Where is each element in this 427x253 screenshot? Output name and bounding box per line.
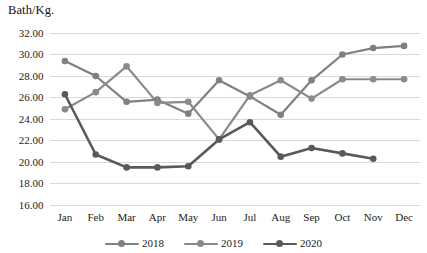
data-point-2020 — [339, 150, 346, 157]
x-axis-tick-label: Aug — [271, 211, 290, 223]
series-line-2020 — [65, 94, 373, 167]
data-point-2019 — [308, 95, 315, 102]
line-chart-svg: 16.0018.0020.0022.0024.0026.0028.0030.00… — [0, 0, 427, 253]
data-point-2019 — [92, 89, 99, 96]
x-axis-tick-label: Jan — [58, 211, 73, 223]
y-axis-tick-label: 30.00 — [19, 48, 44, 60]
legend-swatch-2020 — [263, 239, 297, 249]
data-point-2018 — [277, 111, 284, 118]
y-axis-tick-label: 24.00 — [19, 113, 44, 125]
data-point-2018 — [185, 110, 192, 117]
data-point-2018 — [308, 77, 315, 84]
data-point-2019 — [123, 63, 130, 70]
data-point-2020 — [92, 151, 99, 158]
plot-area: 16.0018.0020.0022.0024.0026.0028.0030.00… — [0, 0, 427, 253]
x-axis-tick-label: Oct — [334, 211, 350, 223]
data-point-2020 — [62, 91, 69, 98]
legend-label-2018: 2018 — [142, 238, 164, 249]
data-point-2019 — [370, 76, 377, 83]
y-axis-tick-label: 28.00 — [19, 70, 44, 82]
data-point-2018 — [216, 77, 223, 84]
x-axis-tick-label: Feb — [88, 211, 105, 223]
data-point-2020 — [247, 119, 254, 126]
data-point-2019 — [154, 100, 161, 107]
data-point-2018 — [401, 43, 408, 50]
legend-item-2020[interactable]: 2020 — [263, 238, 322, 249]
data-point-2018 — [62, 58, 69, 65]
y-axis-tick-label: 22.00 — [19, 134, 44, 146]
x-axis-tick-label: Jun — [211, 211, 227, 223]
legend-label-2020: 2020 — [300, 238, 322, 249]
legend-swatch-2019 — [184, 239, 218, 249]
data-point-2019 — [277, 77, 284, 84]
data-point-2020 — [370, 155, 377, 162]
y-axis-tick-label: 18.00 — [19, 177, 44, 189]
data-point-2020 — [185, 163, 192, 170]
data-point-2018 — [339, 51, 346, 58]
chart-container: Bath/Kg. 16.0018.0020.0022.0024.0026.002… — [0, 0, 427, 253]
x-axis-tick-label: Dec — [395, 211, 413, 223]
y-axis-tick-label: 26.00 — [19, 91, 44, 103]
data-point-2020 — [154, 164, 161, 171]
data-point-2019 — [247, 92, 254, 99]
chart-legend: 201820192020 — [0, 238, 427, 249]
x-axis-tick-labels: JanFebMarAprMayJunJulAugSepOctNovDec — [58, 211, 413, 223]
data-point-2019 — [185, 99, 192, 106]
legend-item-2019[interactable]: 2019 — [184, 238, 243, 249]
y-axis-tick-label: 32.00 — [19, 27, 44, 39]
x-axis-tick-label: Sep — [303, 211, 320, 223]
legend-marker-icon — [197, 240, 204, 247]
y-axis-tick-labels: 16.0018.0020.0022.0024.0026.0028.0030.00… — [19, 27, 44, 211]
legend-marker-icon — [276, 240, 283, 247]
x-axis-tick-label: May — [178, 211, 199, 223]
legend-swatch-2018 — [105, 239, 139, 249]
x-axis-tick-label: Nov — [364, 211, 383, 223]
series-markers-group — [62, 43, 408, 171]
data-point-2018 — [123, 99, 130, 106]
legend-label-2019: 2019 — [221, 238, 243, 249]
data-point-2020 — [308, 145, 315, 152]
y-axis-tick-label: 16.00 — [19, 199, 44, 211]
series-line-2019 — [65, 66, 404, 139]
legend-item-2018[interactable]: 2018 — [105, 238, 164, 249]
data-point-2018 — [370, 45, 377, 52]
series-lines-group — [65, 46, 404, 167]
x-axis-tick-label: Mar — [117, 211, 136, 223]
data-point-2019 — [401, 76, 408, 83]
data-point-2019 — [339, 76, 346, 83]
data-point-2020 — [216, 136, 223, 143]
data-point-2020 — [277, 153, 284, 160]
data-point-2019 — [62, 106, 69, 113]
x-axis-tick-label: Jul — [243, 211, 256, 223]
data-point-2020 — [123, 164, 130, 171]
data-point-2018 — [92, 73, 99, 80]
y-axis-tick-label: 20.00 — [19, 156, 44, 168]
legend-marker-icon — [118, 240, 125, 247]
x-axis-tick-label: Apr — [149, 211, 166, 223]
